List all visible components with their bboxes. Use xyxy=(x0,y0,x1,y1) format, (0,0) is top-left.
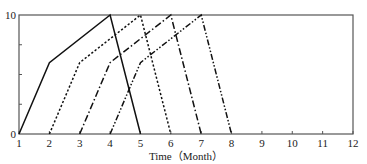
x-tick-label: 9 xyxy=(259,137,265,149)
x-tick-label: 4 xyxy=(107,137,113,149)
y-tick-label: 10 xyxy=(5,9,17,21)
series-2-line xyxy=(49,15,170,134)
x-tick-label: 5 xyxy=(138,137,144,149)
x-tick-label: 7 xyxy=(198,137,204,149)
x-tick-label: 1 xyxy=(16,137,22,149)
x-tick-label: 6 xyxy=(168,137,174,149)
x-tick-label: 12 xyxy=(348,137,359,149)
series-1-line xyxy=(19,15,141,134)
x-tick-label: 2 xyxy=(47,137,53,149)
x-axis-title: Time（Month） xyxy=(149,150,223,162)
series-4-line xyxy=(110,15,231,134)
x-tick-label: 11 xyxy=(317,137,328,149)
series-group xyxy=(19,15,232,134)
x-tick-label: 8 xyxy=(229,137,235,149)
series-3-line xyxy=(80,15,202,134)
x-tick-label: 3 xyxy=(77,137,83,149)
line-chart: 010 123456789101112 Time（Month） xyxy=(0,0,367,164)
x-tick-label: 10 xyxy=(287,137,299,149)
